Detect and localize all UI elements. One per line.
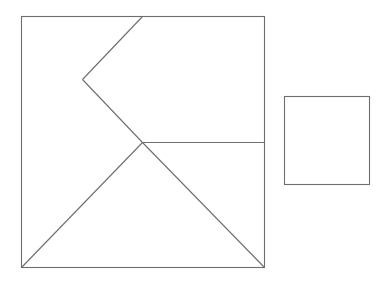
chevron-lower-edge (83, 80, 143, 143)
inner-partition-lines (22, 17, 265, 268)
chevron-upper-edge (83, 17, 143, 80)
dissection-diagram (0, 0, 390, 282)
small-square (285, 97, 370, 185)
diagram-canvas (0, 0, 390, 282)
triangle-right-edge (143, 143, 265, 268)
triangle-left-edge (22, 143, 143, 268)
